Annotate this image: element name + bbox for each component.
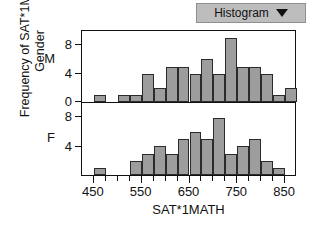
x-tick-label: 450 — [82, 185, 104, 198]
chevron-down-icon — [276, 9, 288, 17]
histogram-panel-male — [82, 31, 295, 102]
x-tick-minor — [212, 176, 213, 181]
histogram-bar — [213, 74, 225, 102]
histogram-bar — [273, 95, 285, 102]
histogram-bar — [118, 95, 130, 102]
x-tick-label: 850 — [273, 185, 295, 198]
x-tick-minor — [177, 176, 178, 181]
y-tick-label: 4 — [65, 66, 72, 79]
y-axis-title-line2: Gender — [33, 0, 48, 131]
x-tick-label: 550 — [130, 185, 152, 198]
histogram-bar — [190, 132, 202, 175]
y-tick — [75, 44, 81, 45]
histogram-bar — [213, 118, 225, 175]
histogram-bar — [130, 161, 142, 175]
x-tick-minor — [105, 176, 106, 181]
x-tick-label: 750 — [225, 185, 247, 198]
histogram-bar — [237, 146, 249, 175]
histogram-bar — [178, 139, 190, 175]
panel-group-label: F — [47, 131, 55, 144]
x-tick-minor — [224, 176, 225, 181]
x-tick-major — [141, 176, 142, 183]
x-tick-minor — [260, 176, 261, 181]
x-axis-title: SAT*1MATH — [81, 203, 296, 216]
histogram-panel-female — [82, 102, 295, 175]
x-tick-minor — [248, 176, 249, 181]
histogram-bar — [94, 95, 106, 102]
histogram-bar — [201, 139, 213, 175]
x-tick-minor — [200, 176, 201, 181]
x-tick-major — [93, 176, 94, 183]
histogram-bar — [166, 154, 178, 175]
histogram-bar — [249, 67, 261, 103]
x-tick-major — [284, 176, 285, 183]
x-tick-minor — [165, 176, 166, 181]
bars-female — [82, 103, 295, 175]
x-tick-label: 650 — [178, 185, 200, 198]
x-axis: SAT*1MATH 450550650750850 — [81, 176, 296, 222]
histogram-bar — [142, 154, 154, 175]
histogram-bar — [261, 74, 273, 102]
chart-type-dropdown-label: Histogram — [214, 7, 269, 19]
histogram-bar — [201, 59, 213, 102]
histogram-bar — [237, 67, 249, 103]
x-tick-minor — [117, 176, 118, 181]
x-tick-minor — [129, 176, 130, 181]
histogram-bar — [178, 67, 190, 103]
y-tick-label: 4 — [65, 140, 72, 153]
y-tick — [75, 146, 81, 147]
x-tick-minor — [153, 176, 154, 181]
histogram-plot-area — [81, 30, 296, 176]
x-tick-minor — [272, 176, 273, 181]
histogram-bar — [190, 74, 202, 102]
histogram-bar — [166, 67, 178, 103]
y-tick-label: 8 — [65, 38, 72, 51]
histogram-bar — [130, 95, 142, 102]
histogram-bar — [225, 38, 237, 102]
x-tick-major — [189, 176, 190, 183]
histogram-bar — [249, 139, 261, 175]
y-tick — [75, 73, 81, 74]
histogram-bar — [142, 74, 154, 102]
y-tick-label: 8 — [65, 110, 72, 123]
histogram-bar — [261, 161, 273, 175]
histogram-bar — [154, 88, 166, 102]
histogram-bar — [273, 168, 285, 175]
chart-type-dropdown[interactable]: Histogram — [196, 3, 306, 23]
y-tick — [75, 116, 81, 117]
bars-male — [82, 31, 295, 102]
x-tick-major — [236, 176, 237, 183]
y-axis-title: Frequency of SAT*1M... Gender — [18, 0, 54, 131]
histogram-bar — [154, 146, 166, 175]
histogram-bar — [225, 154, 237, 175]
histogram-bar — [94, 168, 106, 175]
histogram-bar — [285, 88, 297, 102]
y-axis-title-line1: Frequency of SAT*1M... — [18, 0, 33, 131]
